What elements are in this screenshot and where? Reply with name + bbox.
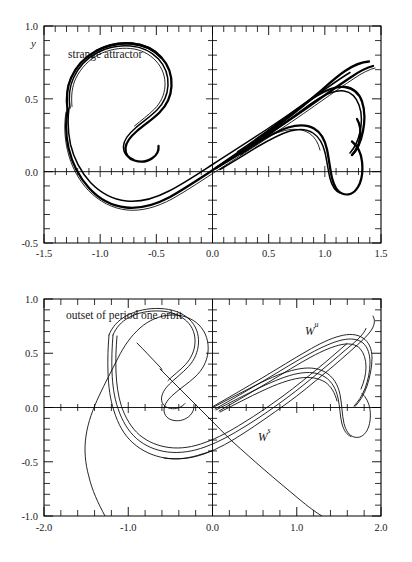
y-ticklabel-bottom-2: 0.0 <box>25 403 38 414</box>
x-ticklabel-top-3: 0.0 <box>206 248 219 259</box>
y-ticklabel-bottom-4: 1.0 <box>25 294 38 305</box>
wu-superscript: u <box>315 320 319 329</box>
outset-panel: 1.0 0.5 0.0 -0.5 -1.0 -2.0 -1.0 0.0 1.0 … <box>0 281 412 562</box>
outset-plot: 1.0 0.5 0.0 -0.5 -1.0 -2.0 -1.0 0.0 1.0 … <box>0 281 412 562</box>
x-ticklabel-top-2: -0.5 <box>148 248 165 259</box>
x-ticklabel-bottom-0: -2.0 <box>36 522 53 533</box>
x-ticklabel-bottom-4: 2.0 <box>374 522 387 533</box>
y-ticklabel-bottom-1: -0.5 <box>21 457 38 468</box>
x-ticklabel-top-4: 0.5 <box>262 248 275 259</box>
y-ticklabel-top-3: 1.0 <box>25 21 38 32</box>
y-ticklabel-bottom-0: -1.0 <box>21 511 38 522</box>
x-ticklabel-bottom-2: 0.0 <box>206 522 219 533</box>
y-ticklabel-top-1: 0.0 <box>25 167 38 178</box>
figure-container: 1.0 0.5 0.0 -0.5 y -1.5 -1.0 -0.5 0.0 0.… <box>0 0 412 562</box>
strange-attractor-annotation: strange attractor <box>68 48 143 61</box>
attractor-curves <box>65 43 375 210</box>
strange-attractor-plot: 1.0 0.5 0.0 -0.5 y -1.5 -1.0 -0.5 0.0 0.… <box>0 0 412 281</box>
x-ticklabel-top-0: -1.5 <box>36 248 53 259</box>
stable-manifold-label: Ws <box>258 426 271 444</box>
y-ticklabel-top-2: 0.5 <box>25 94 38 105</box>
x-ticklabel-bottom-3: 1.0 <box>290 522 303 533</box>
x-ticklabel-bottom-1: -1.0 <box>120 522 137 533</box>
x-ticklabel-top-6: 1.5 <box>374 248 387 259</box>
unstable-manifold-label: Wu <box>305 320 319 338</box>
y-axis-title: y <box>30 37 36 49</box>
x-ticklabel-top-1: -1.0 <box>92 248 109 259</box>
ws-superscript: s <box>268 426 271 435</box>
y-ticklabel-bottom-3: 0.5 <box>25 348 38 359</box>
x-ticklabel-top-5: 1.0 <box>318 248 331 259</box>
strange-attractor-panel: 1.0 0.5 0.0 -0.5 y -1.5 -1.0 -0.5 0.0 0.… <box>0 0 412 281</box>
